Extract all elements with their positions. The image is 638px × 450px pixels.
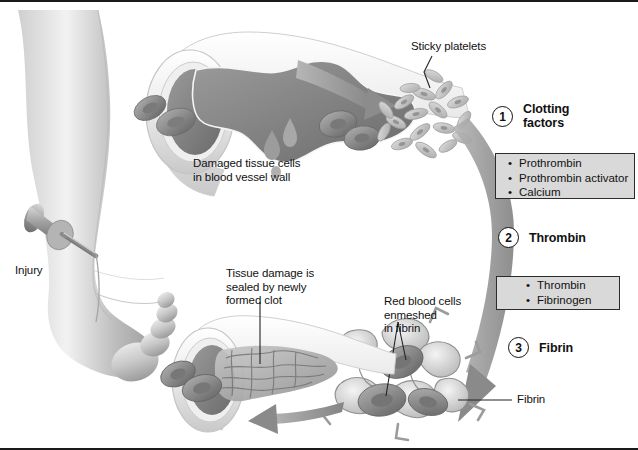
clotting-factors-box-items: Prothrombin Prothrombin activator Calciu…	[508, 156, 628, 200]
step-3-number: 3	[508, 337, 529, 358]
thrombin-box-items: Thrombin Fibrinogen	[526, 278, 591, 307]
leg-and-foot-illustration	[18, 10, 181, 387]
label-sticky-platelets: Sticky platelets	[411, 40, 486, 54]
diagram-illustration	[0, 2, 638, 450]
blood-clotting-figure: Injury Damaged tissue cells in blood ves…	[0, 0, 638, 450]
box-item: Prothrombin	[508, 156, 628, 171]
step-1-number: 1	[492, 106, 513, 127]
label-damaged-tissue: Damaged tissue cells in blood vessel wal…	[193, 157, 300, 184]
step-1-label: Clotting factors	[523, 102, 569, 130]
step-2-number: 2	[498, 227, 519, 248]
label-injury: Injury	[15, 264, 43, 278]
step-2-label: Thrombin	[529, 231, 586, 245]
box-item: Calcium	[508, 185, 628, 200]
box-item: Prothrombin activator	[508, 171, 628, 186]
label-fibrin-pointer: Fibrin	[517, 393, 545, 407]
box-item: Fibrinogen	[526, 293, 591, 308]
label-tissue-sealed: Tissue damage is sealed by newly formed …	[226, 267, 314, 308]
arrow-fibrin-to-clot	[248, 402, 344, 434]
step-3-label: Fibrin	[539, 341, 573, 355]
label-red-blood-cells-enmeshed: Red blood cells enmeshed in fibrin	[384, 295, 461, 336]
box-item: Thrombin	[526, 278, 591, 293]
